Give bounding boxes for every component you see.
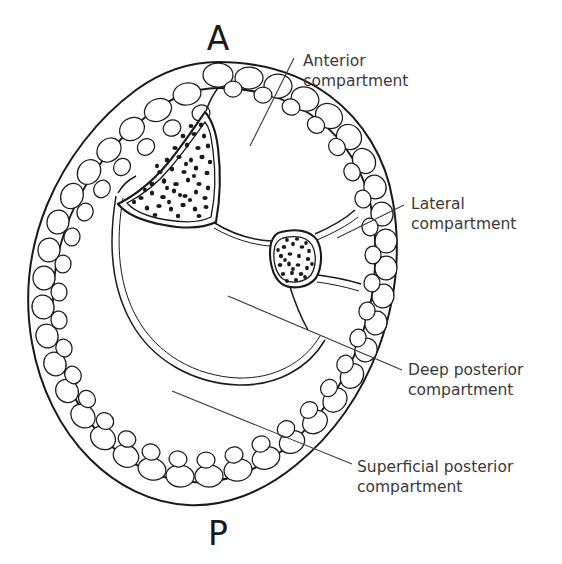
callout-superficial-posterior-line2: compartment	[357, 478, 462, 496]
interosseous-membrane-inner	[214, 228, 270, 246]
anterior-lateral-septum	[315, 210, 355, 234]
callout-label-superficial-posterior-compartment: Superficial posterior compartment	[357, 458, 514, 496]
figure-root: A P	[0, 0, 562, 564]
callout-lateral-line1: Lateral	[411, 195, 465, 213]
orientation-marker-anterior: A	[207, 19, 230, 58]
deep-transverse-fascia	[112, 196, 325, 385]
interosseous-membrane	[213, 222, 271, 241]
callout-deep-posterior-line2: compartment	[408, 381, 513, 399]
fibula-bone	[270, 230, 321, 287]
callout-deep-posterior-line1: Deep posterior	[408, 361, 524, 379]
posterior-lateral-septum-inner	[317, 282, 359, 291]
deep-posterior-boundary-outer	[112, 196, 325, 385]
callout-anterior-line1: Anterior	[303, 52, 366, 70]
anterior-septum	[206, 88, 218, 111]
anterior-lateral-septum-inner	[317, 217, 358, 240]
callout-lateral-line2: compartment	[411, 215, 516, 233]
orientation-marker-posterior: P	[208, 514, 228, 553]
callout-label-lateral-compartment: Lateral compartment	[411, 195, 516, 233]
callout-anterior-line2: compartment	[303, 72, 408, 90]
leg-cross-section-diagram: A P	[0, 0, 562, 564]
callout-superficial-posterior-line1: Superficial posterior	[357, 458, 514, 476]
callout-label-anterior-compartment: Anterior compartment	[303, 52, 408, 90]
medial-septum	[118, 176, 136, 193]
callout-label-deep-posterior-compartment: Deep posterior compartment	[408, 361, 524, 399]
